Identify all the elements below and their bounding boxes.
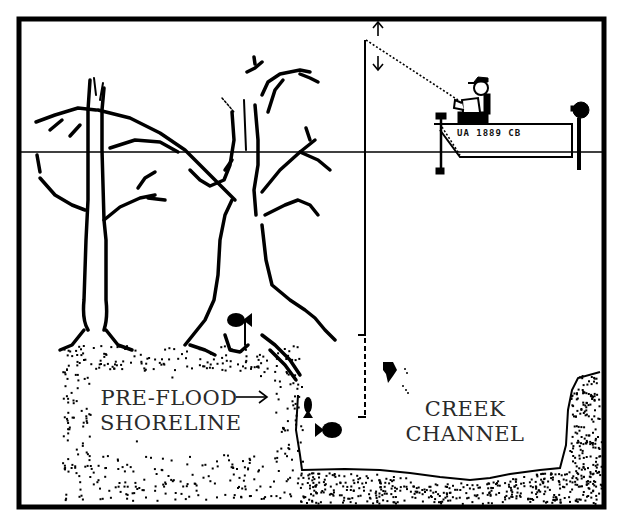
fish-channel-edge bbox=[315, 422, 342, 438]
fishing-line bbox=[358, 40, 458, 417]
creek-channel-label: CREEK CHANNEL bbox=[400, 397, 530, 447]
fishing-rod-line bbox=[366, 40, 458, 100]
stipple-dots-right-bank bbox=[568, 375, 603, 505]
flooded-creek-diagram: UA 1889 CB PRE-FLOOD SHORELINE CREEK CHA… bbox=[0, 0, 622, 523]
depth-adjust-arrows bbox=[373, 22, 383, 70]
boat-with-angler bbox=[434, 77, 589, 174]
left-dead-tree bbox=[36, 78, 235, 350]
shoreline-label-line2: SHORELINE bbox=[100, 411, 238, 436]
pre-flood-shoreline-label: PRE-FLOOD SHORELINE bbox=[100, 386, 238, 436]
channel-label-line1: CREEK bbox=[400, 397, 530, 422]
channel-label-line2: CHANNEL bbox=[400, 422, 530, 447]
fish-in-tree bbox=[227, 313, 252, 327]
shoreline-label-line1: PRE-FLOOD bbox=[100, 386, 238, 411]
center-dead-tree bbox=[185, 57, 335, 380]
fish-near-shoreline bbox=[303, 397, 313, 418]
fish-open-water bbox=[383, 362, 409, 394]
boat-registration-number: UA 1889 CB bbox=[457, 128, 521, 138]
